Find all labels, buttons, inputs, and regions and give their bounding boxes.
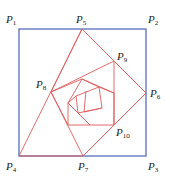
label-p8: P8 [36,79,46,92]
label-p1: P1 [6,14,16,27]
label-p7: P7 [78,161,88,174]
label-p9: P9 [117,51,127,64]
spiral-segment [68,79,82,125]
label-p5: P5 [76,14,86,27]
spiral-square-diagram [0,0,170,184]
label-p2: P2 [148,14,158,27]
label-p3: P3 [148,161,158,174]
spiral-segment [51,61,114,156]
spiral-segment [84,108,102,112]
label-p4: P4 [6,161,16,174]
spiral-segment [51,29,83,156]
label-p6: P6 [150,88,160,101]
spiral-segment [84,91,86,112]
label-p10: P10 [116,127,130,140]
spiral-segment [114,61,146,125]
spiral-segment [76,96,78,113]
